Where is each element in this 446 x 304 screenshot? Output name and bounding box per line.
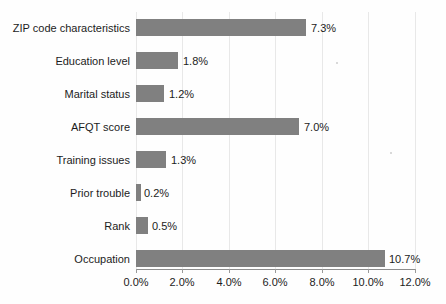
- bar: [136, 184, 141, 201]
- bar-value-label: 0.2%: [144, 186, 169, 199]
- bar-value-label: 0.5%: [152, 219, 177, 232]
- bar: [136, 151, 166, 168]
- x-axis-tick: [275, 269, 276, 273]
- category-label: Rank: [0, 219, 130, 232]
- category-label: Education level: [0, 54, 130, 67]
- bar-row-occupation: Occupation 10.7%: [0, 250, 446, 267]
- bar: [136, 250, 385, 267]
- x-axis-tick: [322, 269, 323, 273]
- category-label: AFQT score: [0, 120, 130, 133]
- bar: [136, 52, 178, 69]
- bar-chart: ZIP code characteristics 7.3% Education …: [0, 0, 446, 304]
- bar-row-prior-trouble: Prior trouble 0.2%: [0, 184, 446, 201]
- bar-value-label: 1.3%: [171, 153, 196, 166]
- bar: [136, 118, 299, 135]
- bar-row-afqt-score: AFQT score 7.0%: [0, 118, 446, 135]
- category-label: Prior trouble: [0, 186, 130, 199]
- bar: [136, 19, 306, 36]
- x-axis-tick: [182, 269, 183, 273]
- bar-row-education-level: Education level 1.8%: [0, 52, 446, 69]
- bar-value-label: 1.8%: [183, 54, 208, 67]
- x-axis-tick-label: 12.0%: [385, 276, 445, 289]
- category-label: Occupation: [0, 252, 130, 265]
- x-axis-tick: [368, 269, 369, 273]
- bar-row-rank: Rank 0.5%: [0, 217, 446, 234]
- x-axis-tick: [415, 269, 416, 273]
- bar-row-marital-status: Marital status 1.2%: [0, 85, 446, 102]
- category-label: ZIP code characteristics: [0, 21, 130, 34]
- x-axis-tick: [136, 269, 137, 273]
- x-axis-line: [136, 269, 416, 270]
- category-label: Training issues: [0, 153, 130, 166]
- bar-row-zip-code-characteristics: ZIP code characteristics 7.3%: [0, 19, 446, 36]
- bar-row-training-issues: Training issues 1.3%: [0, 151, 446, 168]
- bar-value-label: 7.3%: [311, 21, 336, 34]
- bar-value-label: 7.0%: [304, 120, 329, 133]
- bar: [136, 85, 164, 102]
- bar: [136, 217, 148, 234]
- x-axis-tick: [229, 269, 230, 273]
- bar-value-label: 1.2%: [169, 87, 194, 100]
- bar-value-label: 10.7%: [389, 252, 420, 265]
- category-label: Marital status: [0, 87, 130, 100]
